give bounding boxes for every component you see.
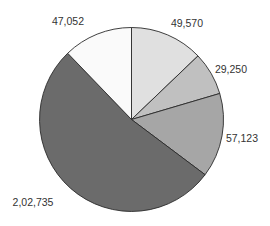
slice-label-57123: 57,123 — [226, 132, 258, 144]
pie-chart: 49,570 29,250 57,123 2,02,735 47,052 — [0, 0, 270, 226]
slice-label-47052: 47,052 — [52, 15, 84, 27]
slice-label-29250: 29,250 — [215, 63, 247, 75]
slice-label-49570: 49,570 — [171, 17, 203, 29]
pie-slices — [40, 28, 224, 212]
slice-label-202735: 2,02,735 — [13, 196, 54, 208]
